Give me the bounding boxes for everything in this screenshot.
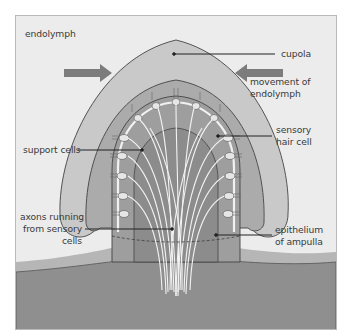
label-axons-2: from sensory [20, 223, 82, 235]
label-axons-3: cells [20, 235, 82, 247]
label-movement-2: endolymph [250, 88, 301, 100]
label-axons-1: axons running [20, 211, 82, 223]
label-movement-1: movement of [250, 76, 310, 88]
label-sensory-2: hair cell [276, 136, 312, 148]
label-sensory-1: sensory [276, 124, 311, 136]
label-epithelium-1: epithelium [275, 224, 323, 236]
label-epithelium-2: of ampulla [275, 236, 323, 248]
label-cupola: cupola [281, 48, 311, 60]
left-flow-arrow [64, 64, 112, 82]
crista-core [134, 128, 218, 262]
label-endolymph: endolymph [25, 28, 76, 40]
label-support-cells: support cells [23, 144, 81, 156]
